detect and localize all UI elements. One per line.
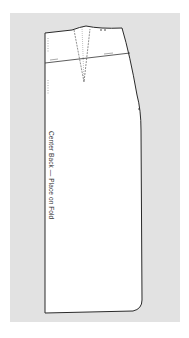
center-back-fold-label: Center Back — Place on Fold: [45, 131, 55, 217]
pattern-outline: [45, 26, 142, 313]
skirt-back-pattern-piece: [0, 0, 189, 338]
notch-mark: [100, 29, 102, 31]
notch-mark: [138, 108, 140, 110]
notch-mark: [104, 29, 106, 31]
